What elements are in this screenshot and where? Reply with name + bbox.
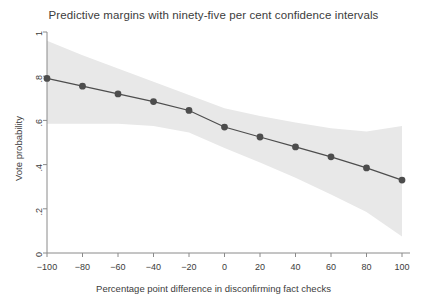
data-point — [186, 107, 193, 114]
chart-container: Predictive margins with ninety-five per … — [0, 0, 427, 304]
x-tick-label: −100 — [27, 262, 67, 272]
plot-area — [0, 0, 427, 304]
data-point — [257, 134, 264, 141]
data-point — [79, 83, 86, 90]
y-tick-label: .8 — [34, 75, 44, 105]
y-tick-label: .4 — [34, 164, 44, 194]
x-tick-label: 0 — [205, 262, 245, 272]
data-point — [221, 124, 228, 131]
data-point — [399, 177, 406, 184]
x-tick-label: −40 — [134, 262, 174, 272]
x-tick-label: −80 — [63, 262, 103, 272]
x-tick-label: −20 — [169, 262, 209, 272]
y-tick-label: .2 — [34, 208, 44, 238]
x-tick-label: −60 — [98, 262, 138, 272]
x-tick-label: 60 — [311, 262, 351, 272]
y-tick-label: .6 — [34, 119, 44, 149]
x-tick-label: 40 — [276, 262, 316, 272]
y-tick-label: 1 — [34, 31, 44, 61]
data-point — [292, 144, 299, 151]
data-point — [363, 165, 370, 172]
data-point — [44, 75, 51, 82]
data-point — [328, 153, 335, 160]
y-tick-label: 0 — [34, 252, 44, 282]
confidence-band — [47, 41, 402, 237]
x-tick-label: 20 — [240, 262, 280, 272]
x-tick-label: 80 — [347, 262, 387, 272]
x-tick-label: 100 — [382, 262, 422, 272]
data-point — [115, 90, 122, 97]
x-axis-ticks — [47, 253, 402, 257]
y-axis-title: Vote probability — [13, 79, 24, 219]
x-axis-title: Percentage point difference in disconfir… — [0, 283, 427, 294]
data-point — [150, 98, 157, 105]
